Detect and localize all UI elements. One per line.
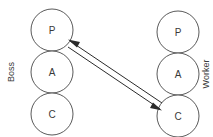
boss-a-label: A: [49, 67, 56, 78]
boss-side-label-group: Boss: [6, 61, 16, 82]
worker-side-label: Worker: [201, 60, 211, 89]
connection-worker-c-to-boss-p[interactable]: [68, 40, 162, 104]
node-worker-p[interactable]: P: [157, 11, 199, 53]
worker-side-label-group: Worker: [201, 60, 211, 89]
worker-column: P A C: [157, 11, 199, 137]
node-boss-a[interactable]: A: [31, 51, 73, 93]
boss-c-label: C: [48, 109, 55, 120]
diagram-canvas: Boss P A C P A: [0, 0, 213, 137]
worker-c-to-boss-p-line[interactable]: [70, 41, 162, 103]
pac-diagram: Boss P A C P A: [0, 0, 213, 137]
node-boss-c[interactable]: C: [31, 93, 73, 135]
node-boss-p[interactable]: P: [31, 9, 73, 51]
boss-column: P A C: [31, 9, 73, 135]
boss-side-label: Boss: [6, 61, 16, 82]
node-worker-c[interactable]: C: [157, 95, 199, 137]
boss-p-to-worker-c-line[interactable]: [68, 47, 160, 109]
worker-p-label: P: [175, 27, 182, 38]
worker-a-label: A: [175, 69, 182, 80]
connection-boss-p-to-worker-c[interactable]: [68, 47, 162, 111]
node-worker-a[interactable]: A: [157, 53, 199, 95]
boss-p-label: P: [49, 25, 56, 36]
worker-c-label: C: [174, 111, 181, 122]
